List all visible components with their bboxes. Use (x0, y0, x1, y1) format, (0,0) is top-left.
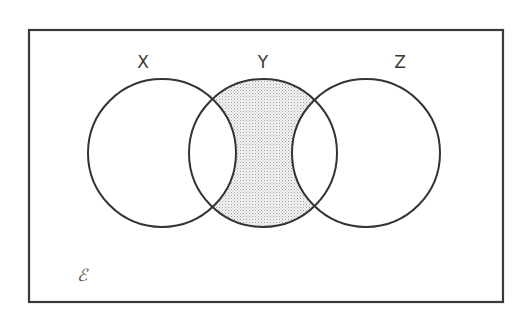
universal-set-symbol: ℰ (77, 265, 89, 285)
set-y-label: Y (257, 52, 269, 72)
set-z-label: Z (394, 52, 406, 72)
venn-diagram: X Y Z ℰ (0, 0, 523, 314)
set-x-label: X (137, 52, 149, 72)
